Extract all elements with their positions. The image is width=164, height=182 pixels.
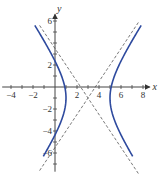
y-tick-label: 2 [48,60,53,70]
x-tick-label: −4 [6,90,16,100]
hyperbola-left-branch [35,25,66,156]
x-tick-label: −2 [28,90,38,100]
hyperbola-chart: −4−22468 62−2−4−6 x y [0,0,164,182]
y-tick-label: 6 [48,16,53,26]
hyperbola-right-branch [110,25,141,156]
x-axis-label: x [152,81,158,92]
x-tick-label: 4 [97,90,102,100]
asymptote-line [40,22,139,171]
x-tick-label: 2 [75,90,80,100]
y-tick-label: −2 [42,104,52,114]
hyperbola-branches [35,25,141,156]
y-tick-label: −4 [42,126,52,136]
x-tick-label: 8 [141,90,146,100]
y-axis-label: y [56,3,62,14]
x-tick-label: 6 [119,90,124,100]
asymptote-line [40,25,139,174]
